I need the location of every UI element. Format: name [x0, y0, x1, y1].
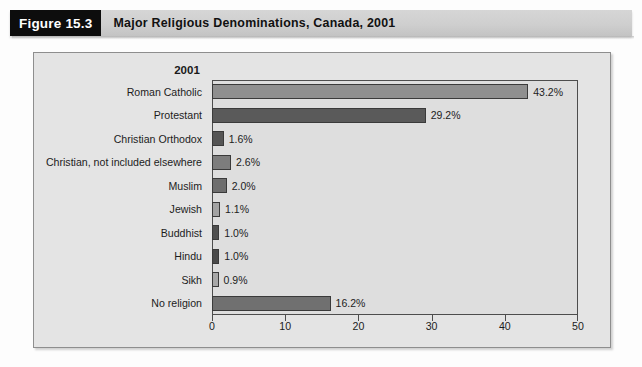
bar-value-label: 43.2%	[533, 86, 563, 98]
bar-value-label: 16.2%	[336, 297, 366, 309]
bar-value-label: 1.0%	[224, 250, 248, 262]
x-axis-tick-label: 0	[209, 320, 215, 332]
bar	[212, 296, 331, 311]
bar-series-2001: 43.2%29.2%1.6%2.6%2.0%1.1%1.0%1.0%0.9%16…	[212, 80, 578, 315]
bar-row: 1.0%	[212, 245, 578, 269]
bar	[212, 178, 227, 193]
bar	[212, 131, 224, 146]
bar	[212, 108, 426, 123]
bar	[212, 84, 528, 99]
series-header-2001: 2001	[152, 64, 222, 76]
category-label: Hindu	[20, 245, 208, 269]
bar-value-label: 1.1%	[225, 203, 249, 215]
bar	[212, 272, 219, 287]
category-label: Muslim	[20, 174, 208, 198]
bar	[212, 249, 219, 264]
category-label: Christian Orthodox	[20, 127, 208, 151]
category-label: No religion	[20, 292, 208, 316]
x-axis-tick-label: 50	[572, 320, 584, 332]
x-axis-tick-label: 10	[279, 320, 291, 332]
bar-row: 16.2%	[212, 292, 578, 316]
bar-row: 2.0%	[212, 174, 578, 198]
bar	[212, 225, 219, 240]
bar-value-label: 2.6%	[236, 156, 260, 168]
x-axis-tick-label: 40	[499, 320, 511, 332]
bar-row: 29.2%	[212, 104, 578, 128]
category-label: Protestant	[20, 104, 208, 128]
category-label: Roman Catholic	[20, 80, 208, 104]
bar-row: 1.6%	[212, 127, 578, 151]
bar-value-label: 29.2%	[431, 109, 461, 121]
header-shadow	[12, 36, 634, 39]
bar-row: 1.0%	[212, 221, 578, 245]
bar-row: 1.1%	[212, 198, 578, 222]
x-axis-tick-label: 20	[352, 320, 364, 332]
category-label: Sikh	[20, 268, 208, 292]
bar-row: 0.9%	[212, 268, 578, 292]
x-axis-tick-label: 30	[426, 320, 438, 332]
bar-value-label: 1.0%	[224, 227, 248, 239]
category-axis-labels: Roman CatholicProtestantChristian Orthod…	[20, 80, 208, 315]
figure-number-badge: Figure 15.3	[10, 10, 101, 36]
bar-row: 43.2%	[212, 80, 578, 104]
bar	[212, 202, 220, 217]
bar	[212, 155, 231, 170]
figure-header: Figure 15.3 Major Religious Denomination…	[10, 10, 632, 36]
x-axis-tick-labels: 01020304050	[212, 320, 578, 336]
bar-row: 2.6%	[212, 151, 578, 175]
figure-title: Major Religious Denominations, Canada, 2…	[101, 10, 395, 36]
bar-value-label: 2.0%	[232, 180, 256, 192]
figure-page: Figure 15.3 Major Religious Denomination…	[0, 0, 642, 367]
bar-value-label: 1.6%	[229, 133, 253, 145]
bar-value-label: 0.9%	[224, 274, 248, 286]
category-label: Jewish	[20, 198, 208, 222]
category-label: Christian, not included elsewhere	[20, 151, 208, 175]
category-label: Buddhist	[20, 221, 208, 245]
